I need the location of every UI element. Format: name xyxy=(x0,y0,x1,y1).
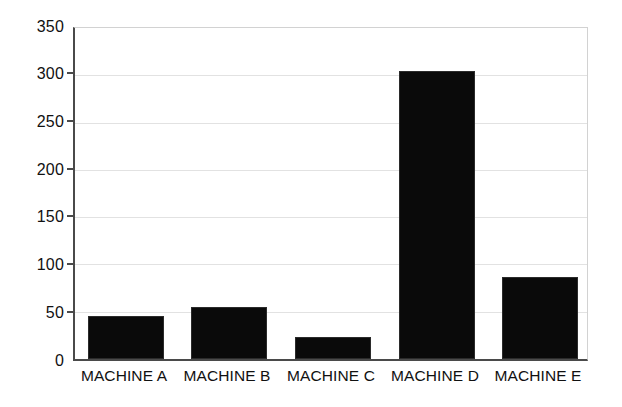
gridline-250 xyxy=(75,123,587,124)
gridline-150 xyxy=(75,217,587,218)
y-axis-tick-label: 250 xyxy=(2,114,64,130)
y-axis-tick-label: 0 xyxy=(2,353,64,369)
gridline-100 xyxy=(75,264,587,265)
y-axis-tick-label: 350 xyxy=(2,19,64,35)
bar-machine-c[interactable] xyxy=(295,337,371,359)
y-axis-tick-label: 200 xyxy=(2,162,64,178)
x-axis-tick-label-machine-e: MACHINE E xyxy=(486,366,590,386)
x-axis-tick-label-machine-b: MACHINE B xyxy=(175,366,279,386)
bar-machine-a[interactable] xyxy=(88,316,164,360)
x-axis-tick-label-machine-d: MACHINE D xyxy=(383,366,487,386)
bar-machine-e[interactable] xyxy=(502,277,578,359)
bar-machine-d[interactable] xyxy=(399,71,475,359)
y-axis-tick-label: 100 xyxy=(2,257,64,273)
y-axis-tick-label: 300 xyxy=(2,66,64,82)
y-axis-tick-label: 50 xyxy=(2,305,64,321)
bar-machine-b[interactable] xyxy=(191,307,267,359)
x-axis-labels: MACHINE A MACHINE B MACHINE C MACHINE D … xyxy=(73,366,588,390)
y-axis-labels: 350 300 250 200 150 100 50 0 xyxy=(0,0,64,407)
plot-area xyxy=(73,27,588,361)
gridline-300 xyxy=(75,75,587,76)
bar-chart: 350 300 250 200 150 100 50 0 MACHINE A M… xyxy=(0,0,622,407)
x-axis-tick-label-machine-c: MACHINE C xyxy=(279,366,383,386)
gridline-200 xyxy=(75,170,587,171)
x-axis-tick-label-machine-a: MACHINE A xyxy=(72,366,176,386)
y-axis-tick-label: 150 xyxy=(2,209,64,225)
